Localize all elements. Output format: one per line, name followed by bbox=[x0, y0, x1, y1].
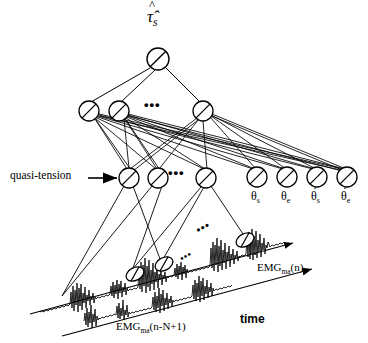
angle-label-theta-e: θe bbox=[281, 190, 290, 206]
node-tension-1 bbox=[119, 168, 139, 188]
angle-label-theta-s: θs bbox=[251, 190, 260, 206]
hidden-to-input-edges bbox=[95, 114, 347, 172]
output-label-tau-hat: ^ τ̂s bbox=[147, 8, 158, 29]
emg-label-left-arg: (n-N+1) bbox=[150, 320, 186, 332]
angle-label-theta-dot-s-sub: s bbox=[317, 196, 320, 205]
emg-label-right: EMGma(n) bbox=[257, 262, 303, 276]
hidden-layer-ellipsis: ••• bbox=[144, 98, 161, 111]
emg-label-right-base: EMG bbox=[257, 261, 281, 273]
emg-label-left-base: EMG bbox=[116, 320, 140, 332]
node-angle-theta-e bbox=[277, 167, 297, 187]
neural-network-diagram: ^ τ̂s quasi-tension θs θe · θs · θe EMGm… bbox=[0, 0, 368, 343]
angle-label-theta-e-sub: e bbox=[287, 196, 291, 205]
quasi-tension-label: quasi-tension bbox=[10, 170, 71, 182]
node-emg-tap-2 bbox=[153, 254, 176, 274]
node-angle-theta-dot-s bbox=[307, 167, 327, 187]
output-label-tau-sub: s bbox=[153, 16, 158, 29]
node-tension-2 bbox=[148, 168, 168, 188]
emg-label-left: EMGma(n-N+1) bbox=[116, 321, 186, 335]
emg-label-right-sub: ma bbox=[281, 267, 290, 276]
angle-label-theta-dot-e-sub: e bbox=[347, 196, 351, 205]
node-output-tau bbox=[147, 48, 169, 70]
node-tension-3 bbox=[196, 168, 216, 188]
time-axis-label: time bbox=[240, 313, 265, 325]
theta-dot-e-dot: · bbox=[343, 182, 347, 194]
angle-label-theta-dot-s: · θs bbox=[311, 190, 320, 206]
angle-label-theta-dot-e: · θe bbox=[341, 190, 350, 206]
node-hidden-2 bbox=[109, 101, 129, 121]
emg-label-left-sub: ma bbox=[140, 326, 149, 335]
node-hidden-3 bbox=[193, 101, 213, 121]
theta-dot-s-dot: · bbox=[313, 182, 317, 194]
tension-layer-ellipsis: ••• bbox=[168, 166, 185, 179]
node-angle-theta-s bbox=[247, 167, 267, 187]
node-angle-theta-dot-e bbox=[337, 167, 357, 187]
emg-label-right-arg: (n) bbox=[291, 261, 304, 273]
angle-label-theta-s-sub: s bbox=[257, 196, 260, 205]
node-hidden-1 bbox=[79, 101, 99, 121]
node-glyphs bbox=[79, 48, 357, 284]
